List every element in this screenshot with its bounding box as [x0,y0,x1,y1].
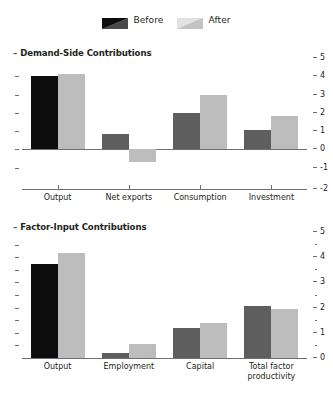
swatch-diagonal-light-icon [177,14,203,25]
y-left-tick [15,345,19,346]
chart-panel-factor-input: –Factor-Input Contributions 012345 Outpu… [0,218,333,417]
y-tick-mark [313,112,317,113]
bar-before-output [31,264,58,359]
x-axis-factor-input [22,358,307,359]
title-dash: – [13,48,17,58]
bar-before-capital [173,328,200,358]
legend-label-after: After [208,15,230,25]
legend-entry-after: After [177,14,230,25]
panel-title-text: Demand-Side Contributions [20,48,151,58]
y-minor-tick [315,345,318,346]
bar-before-net-exports [102,134,129,150]
y-tick-mark [313,188,317,189]
y-minor-tick [315,269,318,270]
y-left-tick [15,95,19,96]
bar-before-consumption [173,113,200,150]
y-left-tick [15,257,19,258]
y-tick-mark [313,231,317,232]
bar-after-investment [271,116,298,150]
y-tick-4: 4 [313,252,325,261]
y-tick-label: 0 [320,144,325,153]
y-tick-1: 1 [313,328,325,337]
y-left-tick [15,245,19,246]
y-tick-mark [313,256,317,257]
x-label-investment: Investment [226,193,317,203]
y-left-tick [15,333,19,334]
y-left-tick [15,113,19,114]
y-tick-mark [313,307,317,308]
y-tick-label: 0 [320,353,325,362]
y-tick-mark [313,75,317,76]
y-tick-label: 5 [320,227,325,236]
y-tick-label: 1 [320,328,325,337]
y-tick-3: 3 [313,90,325,99]
y-tick-mark [313,357,317,358]
y-tick-mark [313,94,317,95]
bar-after-output [58,74,85,150]
y-left-tick [15,149,19,150]
bar-after-output [58,253,85,358]
y-minor-tick-mark [315,345,318,346]
y-tick-1: 1 [313,126,325,135]
y-tick-label: -1 [320,163,328,172]
y-tick-0: 0 [313,144,325,153]
y-tick-mark [313,281,317,282]
y-minor-tick-mark [315,320,318,321]
y-tick-label: 3 [320,277,325,286]
y-tick-mark [313,148,317,149]
chart-legend: Before After [0,14,333,25]
y-tick-4: 4 [313,71,325,80]
y-tick-mark [313,167,317,168]
panel-title-demand-side: –Demand-Side Contributions [13,48,151,58]
x-tick [129,185,130,189]
y-minor-tick [315,295,318,296]
x-tick [200,185,201,189]
y-tick-label: 2 [320,303,325,312]
x-tick [271,185,272,189]
y-tick-label: 5 [320,53,325,62]
y-left-tick [15,168,19,169]
x-axis-demand-side [22,189,307,190]
panel-title-factor-input: –Factor-Input Contributions [13,222,146,232]
legend-label-before: Before [133,15,163,25]
y-left-tick [15,131,19,132]
y-left-tick [15,308,19,309]
y-tick-label: 3 [320,90,325,99]
title-dash: – [13,222,17,232]
y-minor-tick-mark [315,295,318,296]
y-left-tick [15,76,19,77]
y-tick-label: 2 [320,108,325,117]
y-tick-3: 3 [313,277,325,286]
y-tick-mark [313,332,317,333]
bar-after-net-exports [129,149,156,162]
y-tick-0: 0 [313,353,325,362]
y-tick-2: 2 [313,108,325,117]
swatch-diagonal-dark-icon [102,14,128,25]
chart-panel-demand-side: –Demand-Side Contributions -1012345 Outp… [0,44,333,214]
y-left-tick [15,270,19,271]
zero-baseline [22,149,307,150]
plot-area-demand-side: -1012345 [22,58,307,186]
y-tick-mark [313,57,317,58]
y-minor-tick-mark [315,269,318,270]
x-tick [58,185,59,189]
y-tick-label: 1 [320,126,325,135]
bar-after-consumption [200,95,227,150]
y-tick-5: 5 [313,227,325,236]
bar-before-total-factor-productivity [244,306,271,358]
y-tick-label: 4 [320,252,325,261]
panel-title-text: Factor-Input Contributions [20,222,146,232]
plot-area-factor-input: 012345 [22,232,307,358]
y-tick-mark [313,130,317,131]
y-minor-tick [315,244,318,245]
y-tick-label: 4 [320,71,325,80]
x-label-total-factor-productivity: Total factor productivity [226,362,317,382]
y-left-tick [15,282,19,283]
y-tick-5: 5 [313,53,325,62]
y-left-tick [15,320,19,321]
y-tick--2: -2 [313,184,328,193]
bar-after-employment [129,344,156,358]
bar-before-output [31,76,58,149]
bar-after-capital [200,323,227,358]
y-minor-tick-mark [315,244,318,245]
